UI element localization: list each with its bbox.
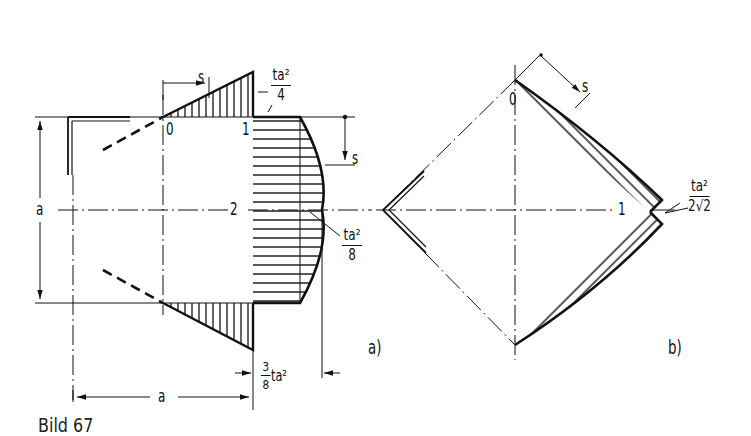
dashed-extension-bottom [103, 270, 163, 303]
dimension-a-horizontal: a [158, 388, 165, 405]
shear-band-lower [515, 212, 662, 345]
figure-caption: Bild 67 [38, 413, 93, 436]
s-label-right: s [352, 150, 358, 167]
panel-a-label: a) [368, 338, 381, 357]
value-ta2-over-4: ta² 4 [271, 68, 291, 103]
shear-band-upper [515, 80, 662, 212]
diagram-canvas [0, 0, 751, 436]
panel-b-label: b) [668, 338, 682, 357]
point-0-label: 0 [166, 121, 174, 138]
panel-a [35, 72, 372, 410]
dimension-lines-b [515, 55, 688, 213]
panel-b [376, 53, 688, 360]
point-0-label-b: 0 [509, 91, 517, 108]
dashed-extension-top [103, 117, 163, 150]
value-ta2-over-2sqrt2: ta² 2√2 [688, 179, 711, 214]
angle-section [68, 117, 130, 175]
s-label-top: s [198, 69, 204, 86]
value-3-8-ta2: 3 8 ta² [261, 360, 292, 391]
reference-lines-b [376, 65, 675, 360]
value-ta2-over-8: ta² 8 [342, 228, 362, 263]
dimension-a-vertical: a [36, 201, 43, 218]
point-1-label: 1 [242, 121, 250, 138]
point-1-label-b: 1 [618, 201, 626, 218]
angle-section-diagonal [383, 171, 426, 253]
point-2-label: 2 [230, 201, 238, 218]
s-label-b: s [582, 78, 588, 95]
